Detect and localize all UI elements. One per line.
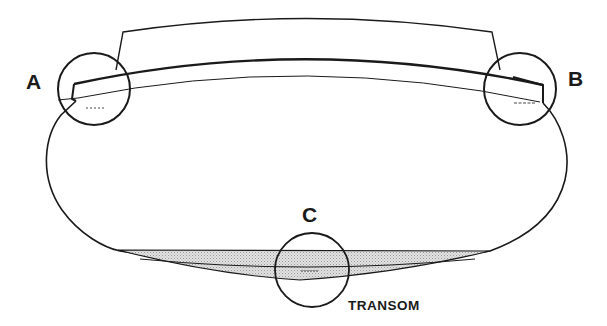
label-transom: TRANSOM bbox=[348, 298, 420, 313]
deck-line bbox=[74, 59, 543, 85]
label-c: C bbox=[302, 203, 317, 226]
label-a: A bbox=[26, 70, 41, 93]
callout-circle-a[interactable] bbox=[58, 53, 130, 125]
callout-circle-b[interactable] bbox=[484, 53, 556, 125]
hull-diagram: A B C TRANSOM bbox=[0, 0, 607, 326]
label-b: B bbox=[568, 67, 583, 90]
transom-band bbox=[118, 250, 490, 280]
cabin-outline bbox=[116, 19, 500, 71]
